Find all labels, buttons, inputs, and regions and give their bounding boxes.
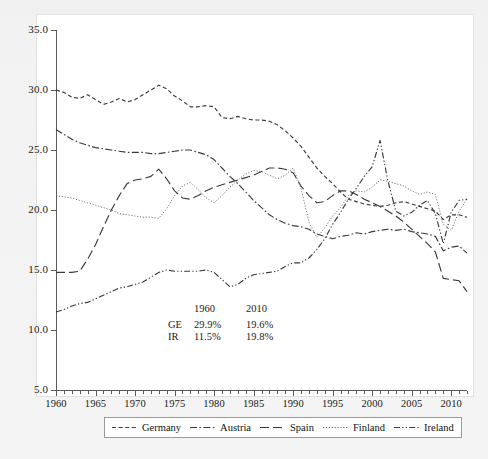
annotation-table: 1960 2010 GE 29.9% 19.6% IR 11.5% 19.8%: [168, 303, 298, 344]
annotation-row-label-ir: IR: [168, 331, 194, 344]
annotation-row-ge: GE 29.9% 19.6%: [168, 319, 298, 332]
annotation-header-1960: 1960: [194, 303, 246, 319]
series-line-ireland: [56, 140, 467, 312]
annotation-header-row: 1960 2010: [168, 303, 298, 319]
legend-entry-spain[interactable]: Spain: [260, 422, 314, 433]
chart-legend: GermanyAustriaSpainFinlandIreland: [104, 417, 462, 438]
legend-swatch-ireland-icon: [394, 423, 420, 432]
legend-label-finland: Finland: [353, 422, 385, 433]
legend-entry-ireland[interactable]: Ireland: [394, 422, 454, 433]
annotation-ir-1960: 11.5%: [194, 331, 246, 344]
series-line-austria: [56, 130, 467, 254]
annotation-corner-cell: [168, 303, 194, 319]
legend-label-austria: Austria: [220, 422, 251, 433]
legend-label-ireland: Ireland: [424, 422, 454, 433]
legend-swatch-austria-icon: [190, 423, 216, 432]
annotation-row-label-ge: GE: [168, 319, 194, 332]
chart-lines: [0, 0, 488, 459]
legend-label-germany: Germany: [142, 422, 181, 433]
annotation-ge-2010: 19.6%: [246, 319, 298, 332]
annotation-ir-2010: 19.8%: [246, 331, 298, 344]
annotation-ge-1960: 29.9%: [194, 319, 246, 332]
annotation-row-ir: IR 11.5% 19.8%: [168, 331, 298, 344]
legend-entry-germany[interactable]: Germany: [112, 422, 181, 433]
legend-entry-finland[interactable]: Finland: [323, 422, 385, 433]
annotation-header-2010: 2010: [246, 303, 298, 319]
legend-swatch-spain-icon: [260, 423, 286, 432]
legend-entry-austria[interactable]: Austria: [190, 422, 251, 433]
legend-swatch-germany-icon: [112, 423, 138, 432]
legend-swatch-finland-icon: [323, 423, 349, 432]
series-line-finland: [56, 168, 467, 238]
chart-figure: 35.030.025.020.015.010.05.01960196519701…: [0, 0, 488, 459]
legend-label-spain: Spain: [290, 422, 314, 433]
